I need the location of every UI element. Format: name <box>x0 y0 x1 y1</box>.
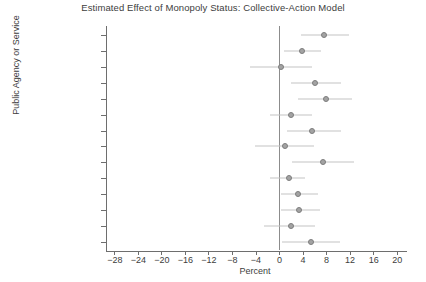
data-point-marker <box>288 223 294 229</box>
y-axis-tick <box>101 242 106 243</box>
data-point-marker <box>295 191 301 197</box>
data-point-marker <box>323 96 329 102</box>
y-axis-tick <box>101 35 106 36</box>
plot-area <box>106 27 406 250</box>
y-axis-tick <box>101 210 106 211</box>
y-axis-tick <box>101 226 106 227</box>
y-axis-tick <box>101 194 106 195</box>
data-point-marker <box>308 239 314 245</box>
y-axis-tick <box>101 99 106 100</box>
chart-figure: Estimated Effect of Monopoly Status: Col… <box>0 0 426 282</box>
data-point-marker <box>321 32 327 38</box>
data-point-marker <box>320 159 326 165</box>
data-point-marker <box>282 143 288 149</box>
y-axis-tick <box>101 146 106 147</box>
y-axis-tick <box>101 115 106 116</box>
y-axis-tick <box>101 131 106 132</box>
y-axis-label: Public Agency or Service <box>11 0 21 155</box>
data-point-marker <box>309 128 315 134</box>
x-axis-tick-label: 20 <box>377 255 417 265</box>
y-axis-tick <box>101 51 106 52</box>
data-point-marker <box>299 48 305 54</box>
y-axis-tick <box>101 178 106 179</box>
y-axis-tick <box>101 83 106 84</box>
data-point-marker <box>278 64 284 70</box>
data-point-marker <box>286 175 292 181</box>
chart-title: Estimated Effect of Monopoly Status: Col… <box>0 2 426 13</box>
data-point-marker <box>312 80 318 86</box>
y-axis-tick <box>101 162 106 163</box>
data-point-marker <box>296 207 302 213</box>
y-axis-tick <box>101 67 106 68</box>
x-axis-label: Percent <box>105 266 405 276</box>
data-point-marker <box>288 112 294 118</box>
